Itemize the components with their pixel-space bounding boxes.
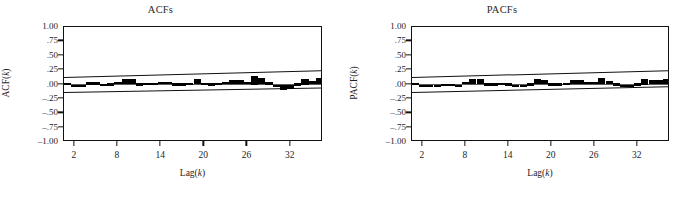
bar (273, 85, 280, 87)
bar (656, 80, 663, 84)
x-axis-ticks-acf: 2814202632 (63, 141, 322, 167)
panel-title-pacf: PACFs (343, 4, 687, 15)
bar (258, 78, 265, 85)
bar (477, 79, 484, 84)
bar (469, 79, 476, 84)
bar (244, 82, 251, 84)
y-axis-label-text-acf: ACF(k) (1, 68, 11, 97)
y-tick-label: 1.00 (42, 21, 58, 31)
bar (179, 83, 186, 85)
bar (577, 80, 584, 85)
bar (194, 79, 201, 84)
y-tick-label: .00 (47, 79, 58, 89)
bar (455, 85, 462, 87)
bar (143, 83, 150, 85)
panel-pacf: PACFs PACF(k) 1.00.75.50.25.00–.25–.50–.… (343, 0, 687, 199)
bar (419, 85, 426, 87)
bar (627, 85, 634, 87)
bar (541, 80, 548, 84)
y-tick-label: –.25 (42, 93, 58, 103)
x-tick-mark (203, 141, 204, 146)
x-axis-ticks-pacf: 2814202632 (411, 141, 669, 167)
bar (280, 85, 287, 90)
x-tick-label: 8 (462, 150, 467, 160)
bar (570, 80, 577, 85)
bar (309, 81, 316, 84)
y-axis-label-pacf: PACF(k) (349, 66, 359, 99)
bar (201, 83, 208, 85)
bar (598, 78, 605, 84)
x-tick-mark (289, 141, 290, 146)
bar (150, 83, 157, 85)
x-tick-mark (507, 141, 508, 146)
bar (563, 83, 570, 85)
x-tick-label: 20 (546, 150, 556, 160)
y-tick-label: –1.00 (38, 136, 58, 146)
bar (426, 85, 433, 88)
y-tick-label: .25 (395, 64, 406, 74)
bar (122, 79, 129, 84)
y-tick-label: .75 (395, 35, 406, 45)
bar (520, 85, 527, 87)
x-tick-mark (246, 141, 247, 146)
bar (251, 76, 258, 85)
y-tick-label: .75 (47, 35, 58, 45)
bar (316, 78, 322, 84)
bar (265, 82, 272, 85)
bar (434, 85, 441, 87)
bar (186, 83, 193, 85)
x-tick-mark (116, 141, 117, 146)
x-axis-label-text-pacf: Lag(k) (527, 168, 552, 178)
bar (86, 82, 93, 85)
y-tick-label: 1.00 (390, 21, 406, 31)
x-tick-label: 8 (115, 150, 120, 160)
bar (287, 85, 294, 90)
y-tick-label: .00 (395, 79, 406, 89)
bar (172, 83, 179, 85)
panel-title-acf: ACFs (0, 4, 343, 15)
x-tick-mark (73, 141, 74, 146)
y-axis-ticks-pacf: 1.00.75.50.25.00–.25–.50–.75–1.00 (374, 26, 411, 141)
bar (78, 85, 85, 87)
bar (64, 83, 71, 85)
bar (649, 80, 656, 84)
bars-pacf (412, 27, 668, 140)
panel-acf: ACFs ACF(k) 1.00.75.50.25.00–.25–.50–.75… (0, 0, 343, 199)
bar (527, 83, 534, 85)
bar (534, 79, 541, 84)
bar (584, 82, 591, 84)
bar (641, 79, 648, 85)
bar (555, 83, 562, 85)
bar (548, 83, 555, 85)
bar (462, 82, 469, 84)
x-tick-mark (421, 141, 422, 146)
x-tick-mark (636, 141, 637, 146)
x-tick-label: 20 (199, 150, 209, 160)
x-tick-label: 2 (419, 150, 424, 160)
bar (129, 79, 136, 84)
bar (484, 83, 491, 85)
y-tick-label: .50 (47, 50, 58, 60)
y-tick-label: –1.00 (386, 136, 406, 146)
bar (114, 82, 121, 84)
plot-area-pacf (411, 26, 669, 141)
x-tick-mark (550, 141, 551, 146)
x-tick-mark (593, 141, 594, 146)
bar (663, 79, 669, 84)
bar (498, 83, 505, 85)
bar (620, 85, 627, 87)
bar (215, 83, 222, 85)
bar (136, 83, 143, 85)
x-tick-label: 26 (242, 150, 252, 160)
y-axis-label-text-pacf: PACF(k) (349, 66, 359, 99)
acf-pacf-figure: ACFs ACF(k) 1.00.75.50.25.00–.25–.50–.75… (0, 0, 687, 199)
bar (107, 83, 114, 85)
x-tick-mark (159, 141, 160, 146)
x-axis-label-pacf: Lag(k) (411, 168, 669, 178)
bar (158, 82, 165, 84)
y-tick-label: –.75 (42, 122, 58, 132)
bar (71, 85, 78, 87)
bar (93, 82, 100, 85)
bar (100, 84, 107, 86)
bars-acf (64, 27, 321, 140)
